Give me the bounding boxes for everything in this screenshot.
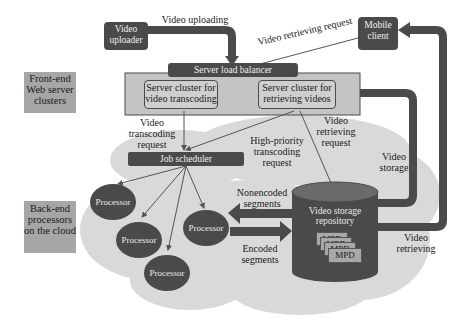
storage-label: Video storage repository bbox=[296, 206, 374, 226]
nonencoded-segments-label: Nonencoded segments bbox=[234, 187, 290, 209]
job-scheduler-node: Job scheduler bbox=[128, 152, 244, 166]
video-storage-label: Video storage bbox=[376, 151, 412, 173]
transcoding-cluster-node: Server cluster for video transcoding bbox=[144, 80, 218, 109]
load-balancer-node: Server load balancer bbox=[168, 63, 298, 77]
mobile-client-node: Mobile client bbox=[358, 17, 398, 50]
retrieving-cluster-node: Server cluster for retrieving videos bbox=[258, 80, 336, 109]
backend-label: Back-end processors on the cloud bbox=[24, 201, 76, 253]
processor-node: Processor bbox=[183, 210, 229, 246]
processor-node: Processor bbox=[116, 222, 162, 258]
processor-node: Processor bbox=[144, 255, 190, 291]
video-transcoding-request-label: Video transcoding request bbox=[124, 117, 180, 150]
processor-node: Processor bbox=[90, 184, 136, 220]
frontend-label: Front-end Web server clusters bbox=[24, 72, 76, 113]
encoded-segments-label: Encoded segments bbox=[236, 243, 284, 265]
video-uploader-node: Video uploader bbox=[104, 22, 148, 50]
video-uploading-label: Video uploading bbox=[160, 14, 230, 25]
high-priority-label: High-priority transcoding request bbox=[246, 135, 308, 168]
mpd-item: MPD bbox=[328, 248, 362, 263]
video-retrieving-label: Video retrieving bbox=[393, 232, 439, 254]
video-retrieving-request-label: Video retrieving request bbox=[312, 115, 360, 148]
